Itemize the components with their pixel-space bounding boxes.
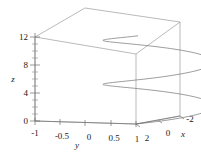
z-tick-label-0: 0 [24,116,29,126]
z-axis-title: z [10,74,15,84]
z-axis: 0 4 8 12 z [10,32,40,126]
x-tick-label-neg2: -2 [186,114,194,124]
helix-curve [103,36,201,124]
helix-curve-group [103,36,201,124]
x-tick-2 [136,124,140,127]
x-axis: 2 0 -2 x [136,114,194,143]
z-tick-label-8: 8 [24,60,29,70]
bounding-box [35,8,180,124]
y-axis: -1 -0.5 0 0.5 1 y [31,118,139,150]
y-axis-title: y [74,140,79,150]
z-tick-label-12: 12 [19,32,28,42]
plot-canvas: 0 4 8 12 z -1 -0.5 0 0.5 1 y [0,0,201,157]
y-tick-label-neg05: -0.5 [55,131,70,141]
y-tick-label-0: 0 [87,132,92,142]
y-axis-line [35,121,136,124]
y-tick-label-1: 1 [135,134,140,144]
z-tick-label-4: 4 [24,88,29,98]
y-tick-label-05: 0.5 [108,133,120,143]
plot-figure: 0 4 8 12 z -1 -0.5 0 0.5 1 y [0,0,201,157]
x-tick-label-2: 2 [145,133,150,143]
x-axis-title: x [180,129,185,139]
y-tick-label-neg1: -1 [31,128,39,138]
x-tick-label-0: 0 [166,128,171,138]
